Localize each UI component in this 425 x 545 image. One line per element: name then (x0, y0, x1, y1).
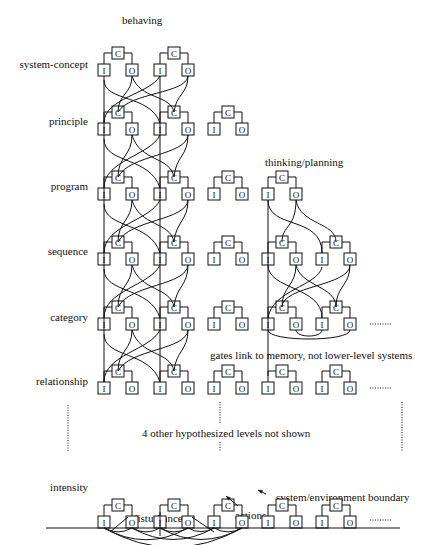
svg-text:I: I (159, 66, 162, 76)
svg-text:I: I (321, 518, 324, 528)
hierarchy-diagram: CIOCIOCIOCIOCIOCIOCIOCIOCIOCIOCIOCIOCIOC… (0, 0, 425, 545)
svg-text:C: C (171, 49, 177, 59)
svg-text:O: O (129, 66, 136, 76)
svg-text:O: O (239, 125, 246, 135)
svg-text:I: I (267, 190, 270, 200)
svg-text:O: O (185, 66, 192, 76)
svg-text:O: O (239, 320, 246, 330)
svg-text:O: O (185, 255, 192, 265)
svg-text:C: C (225, 108, 231, 118)
svg-text:C: C (279, 173, 285, 183)
svg-text:I: I (213, 320, 216, 330)
svg-text:O: O (293, 384, 300, 394)
svg-text:O: O (347, 518, 354, 528)
svg-text:O: O (185, 384, 192, 394)
svg-text:C: C (225, 501, 231, 511)
svg-text:I: I (213, 518, 216, 528)
svg-text:O: O (347, 384, 354, 394)
svg-text:O: O (185, 320, 192, 330)
svg-text:O: O (293, 255, 300, 265)
svg-text:O: O (129, 190, 136, 200)
svg-text:I: I (213, 125, 216, 135)
svg-text:O: O (129, 518, 136, 528)
svg-text:O: O (185, 190, 192, 200)
svg-text:O: O (185, 125, 192, 135)
svg-text:C: C (171, 501, 177, 511)
svg-text:O: O (293, 320, 300, 330)
svg-text:O: O (129, 384, 136, 394)
svg-text:O: O (293, 518, 300, 528)
svg-text:I: I (213, 255, 216, 265)
svg-text:C: C (333, 501, 339, 511)
svg-text:I: I (267, 518, 270, 528)
svg-text:O: O (239, 518, 246, 528)
svg-text:O: O (129, 320, 136, 330)
svg-text:O: O (293, 190, 300, 200)
svg-text:C: C (225, 303, 231, 313)
svg-text:O: O (185, 518, 192, 528)
svg-text:C: C (225, 173, 231, 183)
svg-text:O: O (239, 190, 246, 200)
svg-text:C: C (333, 367, 339, 377)
svg-text:I: I (103, 384, 106, 394)
svg-text:I: I (159, 384, 162, 394)
svg-text:I: I (321, 255, 324, 265)
svg-text:I: I (103, 66, 106, 76)
svg-text:O: O (129, 125, 136, 135)
svg-text:C: C (279, 367, 285, 377)
svg-text:C: C (115, 501, 121, 511)
svg-text:I: I (213, 384, 216, 394)
svg-text:O: O (129, 255, 136, 265)
svg-text:I: I (103, 518, 106, 528)
svg-text:C: C (115, 49, 121, 59)
svg-text:I: I (213, 190, 216, 200)
svg-text:I: I (321, 384, 324, 394)
svg-text:C: C (279, 501, 285, 511)
svg-text:C: C (225, 367, 231, 377)
svg-text:I: I (267, 384, 270, 394)
svg-text:C: C (225, 238, 231, 248)
svg-text:O: O (347, 255, 354, 265)
svg-text:O: O (239, 255, 246, 265)
svg-text:O: O (347, 320, 354, 330)
svg-text:O: O (239, 384, 246, 394)
svg-text:I: I (321, 320, 324, 330)
